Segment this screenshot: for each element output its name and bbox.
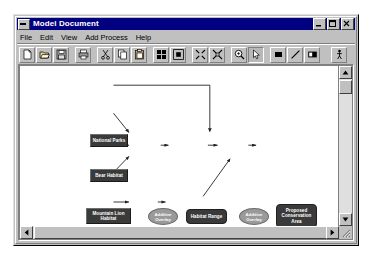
edge-roads-buffer-to-overlay2 xyxy=(203,159,230,197)
print-button[interactable] xyxy=(75,47,91,63)
toolbar xyxy=(17,46,355,63)
connector-group xyxy=(113,85,256,202)
cut-button[interactable] xyxy=(97,47,113,63)
node-additive-overlay-1[interactable]: Additive Overlay xyxy=(148,208,178,225)
menu-item-view[interactable]: View xyxy=(60,33,78,43)
scroll-down-button[interactable] xyxy=(339,213,352,226)
model-document-window: Model Document File Edit View Add Proces… xyxy=(13,14,359,246)
select-pointer-button[interactable] xyxy=(248,47,264,63)
minimize-button[interactable] xyxy=(313,18,326,30)
scroll-right-button[interactable] xyxy=(326,226,339,239)
scroll-up-button[interactable] xyxy=(339,66,352,79)
maximize-button[interactable] xyxy=(327,18,340,30)
diagram-connectors xyxy=(20,66,338,226)
arrange-layout-button[interactable] xyxy=(153,47,169,63)
open-document-button[interactable] xyxy=(36,47,52,63)
add-data-element-button[interactable] xyxy=(270,47,286,63)
menu-item-edit[interactable]: Edit xyxy=(39,33,54,43)
title-bar[interactable]: Model Document xyxy=(17,18,355,30)
copy-button[interactable] xyxy=(114,47,130,63)
node-mountain-lion-habitat[interactable]: Mountain Lion Habitat xyxy=(86,208,131,224)
node-habitat-range[interactable]: Habitat Range xyxy=(186,209,227,224)
node-additive-overlay-2[interactable]: Additive Overlay xyxy=(239,208,269,225)
system-menu-icon[interactable] xyxy=(18,19,30,30)
node-proposed-conservation-area[interactable]: Proposed Conservation Area xyxy=(276,204,317,226)
menu-item-file[interactable]: File xyxy=(19,33,33,43)
window-title: Model Document xyxy=(33,19,312,29)
close-button[interactable] xyxy=(341,18,354,30)
save-document-button[interactable] xyxy=(53,47,69,63)
menu-item-add-process[interactable]: Add Process xyxy=(84,33,129,43)
node-bear-habitat[interactable]: Bear Habitat xyxy=(90,169,128,182)
document-client-area: National Parks Bear Habitat Mountain Lio… xyxy=(18,64,354,241)
add-process-element-button[interactable] xyxy=(304,47,320,63)
menu-separator xyxy=(17,43,355,45)
model-diagram: National Parks Bear Habitat Mountain Lio… xyxy=(20,66,338,226)
paste-button[interactable] xyxy=(131,47,147,63)
zoom-tool-button[interactable] xyxy=(231,47,247,63)
menu-item-help[interactable]: Help xyxy=(135,33,152,43)
vertical-scrollbar[interactable] xyxy=(339,66,352,226)
run-model-button[interactable] xyxy=(331,47,347,63)
fit-layout-button[interactable] xyxy=(170,47,186,63)
edge-bear-to-overlay1 xyxy=(113,113,128,132)
add-connector-button[interactable] xyxy=(287,47,303,63)
vertical-scroll-thumb[interactable] xyxy=(339,80,352,94)
scroll-left-button[interactable] xyxy=(20,226,33,239)
resize-grip-icon[interactable] xyxy=(340,227,351,238)
zoom-out-button[interactable] xyxy=(192,47,208,63)
horizontal-scrollbar[interactable] xyxy=(20,226,339,239)
new-document-button[interactable] xyxy=(19,47,35,63)
zoom-fit-button[interactable] xyxy=(209,47,225,63)
menu-bar: File Edit View Add Process Help xyxy=(17,32,355,43)
node-national-parks[interactable]: National Parks xyxy=(90,134,128,147)
horizontal-scroll-thumb[interactable] xyxy=(34,226,330,239)
edge-national-parks-to-overlay2 xyxy=(113,85,209,131)
scrollbar-corner xyxy=(339,226,352,239)
model-canvas[interactable]: National Parks Bear Habitat Mountain Lio… xyxy=(20,66,339,226)
